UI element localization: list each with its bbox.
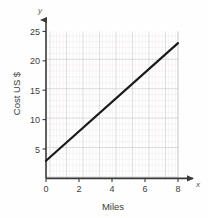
x-tick-label-6: 6 [135,184,155,194]
x-axis-title: Miles [78,201,148,212]
x-tick-label-0: 0 [36,184,56,194]
y-tick-label-20: 20 [20,56,40,66]
x-tick-label-2: 2 [69,184,89,194]
y-axis-letter: y [38,6,42,15]
grid-major [46,31,178,178]
x-axis-letter: x [196,180,200,189]
x-tick-label-8: 8 [168,184,188,194]
y-axis-title: Cost US $ [11,59,22,129]
y-tick-label-10: 10 [20,115,40,125]
y-tick-label-15: 15 [20,86,40,96]
y-tick-label-5: 5 [20,145,40,155]
y-tick-label-25: 25 [20,27,40,37]
chart-figure: 25 20 15 10 5 0 2 4 6 8 Cost US $ Miles … [0,0,208,218]
x-tick-label-4: 4 [102,184,122,194]
